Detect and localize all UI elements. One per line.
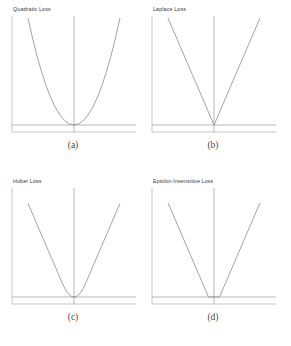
panel-epsilon-insensitive-loss: Epsilon-Insensitive Loss (d) [148,176,278,338]
chart-quadratic-loss [8,4,138,138]
plot-area-huber-loss: Huber Loss [8,176,138,310]
plot-area-quadratic-loss: Quadratic Loss [8,4,138,138]
panel-title-laplace-loss: Laplace Loss [153,6,186,12]
panel-title-epsilon-insensitive-loss: Epsilon-Insensitive Loss [153,178,213,184]
panel-caption-a: (a) [8,140,138,150]
panel-title-huber-loss: Huber Loss [13,178,42,184]
chart-huber-loss [8,176,138,310]
panel-title-quadratic-loss: Quadratic Loss [13,6,51,12]
chart-epsilon-insensitive-loss [148,176,278,310]
chart-laplace-loss [148,4,278,138]
loss-functions-figure: Quadratic Loss (a) Laplace Loss (b) [0,0,291,346]
plot-area-epsilon-insensitive-loss: Epsilon-Insensitive Loss [148,176,278,310]
plot-area-laplace-loss: Laplace Loss [148,4,278,138]
panel-caption-b: (b) [148,140,278,150]
panel-huber-loss: Huber Loss (c) [8,176,138,338]
panel-caption-c: (c) [8,312,138,322]
panel-laplace-loss: Laplace Loss (b) [148,4,278,166]
panel-quadratic-loss: Quadratic Loss (a) [8,4,138,166]
panel-caption-d: (d) [148,312,278,322]
